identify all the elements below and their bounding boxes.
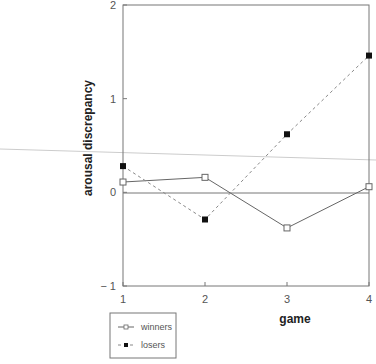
filled-square-marker-icon	[366, 53, 372, 59]
line-chart: 1234− 1012 game arousal discrepancy winn…	[0, 0, 376, 364]
tick-labels: 1234− 1012	[100, 0, 372, 305]
legend-label-losers: losers	[141, 340, 166, 350]
open-square-marker-icon	[202, 174, 208, 180]
filled-square-marker-icon	[120, 163, 126, 169]
filled-square-marker-icon	[284, 131, 290, 137]
scan-artifact-line	[0, 149, 376, 160]
y-tick-label: − 1	[100, 280, 116, 292]
y-tick-label: 0	[110, 186, 116, 198]
open-square-marker-icon	[366, 184, 372, 190]
series-layer	[120, 53, 372, 231]
open-square-marker-icon	[284, 225, 290, 231]
series-winners	[120, 174, 372, 231]
losers-line	[123, 56, 369, 220]
winners-line	[123, 177, 369, 228]
open-square-marker-icon	[124, 325, 128, 329]
x-axis-title: game	[279, 312, 311, 326]
y-tick-label: 1	[110, 93, 116, 105]
axis-ticks	[123, 5, 369, 286]
filled-square-marker-icon	[124, 343, 128, 347]
x-tick-label: 2	[202, 293, 208, 305]
open-square-marker-icon	[120, 179, 126, 185]
x-tick-label: 1	[120, 293, 126, 305]
x-tick-label: 4	[366, 293, 372, 305]
legend-box	[110, 313, 176, 358]
y-axis-title: arousal discrepancy	[81, 80, 95, 196]
series-losers	[120, 53, 372, 223]
x-tick-label: 3	[284, 293, 290, 305]
legend: winners losers	[110, 313, 176, 358]
plot-frame	[123, 5, 369, 286]
y-tick-label: 2	[110, 0, 116, 11]
filled-square-marker-icon	[202, 216, 208, 222]
legend-label-winners: winners	[140, 322, 173, 332]
